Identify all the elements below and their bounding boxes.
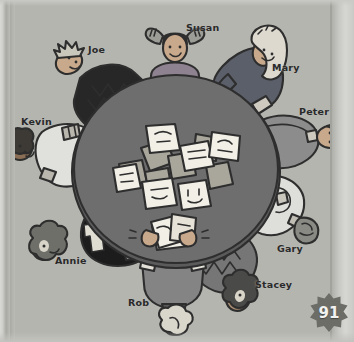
page-number: 91 xyxy=(319,304,340,322)
label-joe: Joe xyxy=(88,44,105,55)
label-peter: Peter xyxy=(299,106,329,117)
label-stacey: Stacey xyxy=(255,279,292,290)
page-gutter-left xyxy=(0,0,10,342)
label-mary: Mary xyxy=(272,62,300,73)
page-gutter-shadow xyxy=(10,0,15,342)
book-page: .ol{stroke:#2e2e2e;stroke-width:2.1;stro… xyxy=(0,0,354,342)
label-annie: Annie xyxy=(55,255,87,266)
page-top-fade xyxy=(0,0,354,6)
page-bottom-fade xyxy=(0,332,354,342)
page-number-badge: 91 xyxy=(308,292,350,334)
label-gary: Gary xyxy=(277,243,303,254)
label-susan: Susan xyxy=(186,22,219,33)
page-edge-right xyxy=(332,0,354,342)
label-kevin: Kevin xyxy=(21,116,52,127)
label-rob: Rob xyxy=(128,297,149,308)
illustration-scene: .ol{stroke:#2e2e2e;stroke-width:2.1;stro… xyxy=(0,0,354,342)
